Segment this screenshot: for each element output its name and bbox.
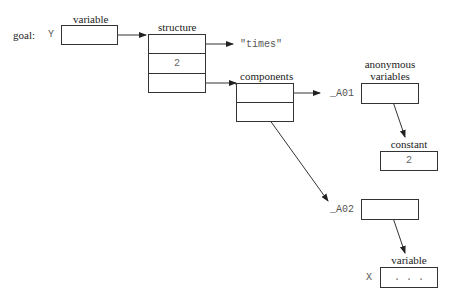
- structure-box: 2: [148, 34, 206, 93]
- goal-var-name: Y: [48, 29, 54, 41]
- constant-box: 2: [380, 151, 438, 171]
- structure-arity-cell: 2: [149, 54, 205, 74]
- structure-functor-cell: [149, 35, 205, 54]
- structure-components-cell: [149, 74, 205, 93]
- variable-x-name: X: [366, 272, 372, 284]
- components-box: [236, 83, 294, 122]
- variable-y-box: [61, 25, 118, 45]
- goal-label: goal:: [13, 29, 35, 41]
- anonymous-title-line1: anonymous: [360, 58, 420, 70]
- variable-bottom-title: variable: [380, 254, 438, 266]
- structure-title: structure: [158, 21, 196, 33]
- diagram-canvas: goal: Y variable structure 2 "times" com…: [0, 0, 450, 299]
- variable-top-title: variable: [73, 13, 108, 25]
- a01-box: [361, 83, 419, 104]
- constant-title: constant: [380, 138, 438, 150]
- component-2-cell: [237, 103, 293, 122]
- constant-value: 2: [381, 152, 437, 170]
- variable-x-value: . . .: [381, 268, 437, 287]
- a02-box: [361, 199, 419, 220]
- functor-name: "times": [240, 39, 282, 51]
- a02-name: _A02: [330, 204, 354, 216]
- variable-x-box: . . .: [380, 267, 438, 288]
- component-1-cell: [237, 84, 293, 103]
- anonymous-title-line2: variables: [360, 70, 420, 82]
- components-title: components: [240, 70, 293, 82]
- a01-name: _A01: [330, 88, 354, 100]
